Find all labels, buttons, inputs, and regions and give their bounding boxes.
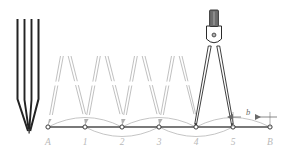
technical-drawing-figure: b A 1 2 3 4 5 B	[0, 0, 284, 167]
point-label-3: 3	[156, 137, 162, 147]
ghost-position-1	[48, 56, 87, 126]
point-label-1: 1	[83, 137, 88, 147]
point-marker-A	[46, 125, 50, 129]
closed-divider-leg-left-inner	[25, 19, 29, 129]
point-marker-2	[120, 125, 124, 129]
point-label-4: 4	[194, 137, 199, 147]
pivot-center-dot	[213, 34, 214, 35]
point-label-B: B	[267, 137, 273, 147]
closed-dividers	[18, 19, 39, 134]
closed-divider-leg-right-inner	[29, 19, 31, 129]
point-labels: A 1 2 3 4 5 B	[44, 137, 273, 147]
open-divider-leg-left	[195, 46, 211, 124]
ghost-position-4	[159, 56, 197, 126]
point-marker-4	[194, 125, 198, 129]
drawing-canvas: b A 1 2 3 4 5 B	[0, 0, 284, 167]
point-marker-3	[157, 125, 161, 129]
ghost-divider-positions	[48, 56, 197, 126]
point-label-5: 5	[231, 137, 236, 147]
ghost-position-3	[122, 56, 161, 126]
open-divider-leg-right	[217, 46, 233, 124]
open-dividers	[195, 10, 233, 128]
closed-divider-tip	[28, 124, 30, 134]
point-marker-1	[83, 125, 87, 129]
dimension-label-b: b	[246, 107, 250, 117]
point-label-2: 2	[120, 137, 125, 147]
point-label-A: A	[44, 137, 51, 147]
remainder-dimension: b	[233, 107, 277, 127]
ghost-position-2	[85, 56, 124, 126]
